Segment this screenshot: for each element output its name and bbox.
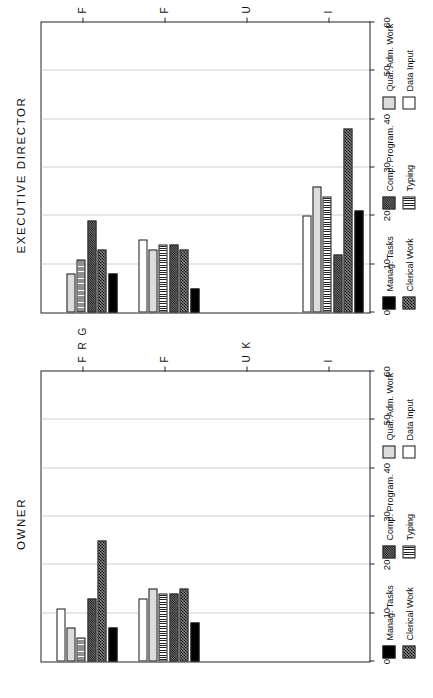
category-label-F: F: [159, 5, 170, 13]
chart-canvas-executive-director: EXECUTIVE DIRECTOR 0102030405060IU KFF R…: [0, 0, 433, 349]
bar-FRG-ClericalWork: [97, 540, 106, 661]
bar-I-ManagTasks: [354, 211, 363, 313]
x-axis-tick: [369, 370, 374, 371]
x-axis-tick: [369, 612, 374, 613]
legend-swatch-clerical: [402, 296, 415, 309]
bar-F-DataInput: [138, 598, 147, 661]
legend-label-qual: Qual. Adm. Work: [384, 372, 394, 440]
category-label-FRG: F R G: [77, 0, 88, 13]
chart-panel-owner: OWNER 0102030405060IU KFF R G Manag. Tas…: [0, 349, 433, 698]
chart-title-executive-director: EXECUTIVE DIRECTOR: [14, 0, 26, 349]
legend-swatch-data: [402, 96, 415, 109]
legend-item-clerical: Clerical Work: [402, 238, 415, 309]
legend-item-qual: Qual. Adm. Work: [382, 372, 395, 458]
legend-item-typing: Typing: [402, 164, 415, 209]
x-axis-tick: [369, 563, 374, 564]
gridline: [41, 418, 369, 419]
legend-item-manag: Manag. Tasks: [382, 585, 395, 658]
bar-FRG-CompProgram: [87, 598, 96, 661]
category-label-UK: U K: [241, 0, 252, 13]
chart-canvas-owner: OWNER 0102030405060IU KFF R G Manag. Tas…: [0, 349, 433, 698]
bar-F-Typing: [158, 244, 167, 312]
bar-FRG-ClericalWork: [97, 249, 106, 312]
bar-F-CompProgram: [169, 244, 178, 312]
category-label-I: I: [323, 8, 334, 13]
legend-swatch-data: [402, 445, 415, 458]
x-axis-tick: [369, 118, 374, 119]
bar-F-Typing: [158, 593, 167, 661]
legend-swatch-typing: [402, 196, 415, 209]
bar-FRG-DataInput: [56, 608, 65, 661]
bar-I-Typing: [322, 196, 331, 312]
bar-FRG-Typing: [76, 637, 85, 661]
x-axis-tick: [369, 660, 374, 661]
category-tick: [164, 17, 165, 22]
category-label-F: F: [159, 354, 170, 362]
gridline: [41, 166, 369, 167]
chart-title-owner: OWNER: [14, 349, 26, 698]
bar-F-ClericalWork: [179, 589, 188, 662]
legend-item-comp: Comp. Program.: [382, 474, 395, 558]
legend-swatch-comp: [382, 196, 395, 209]
gridline: [41, 515, 369, 516]
legend-item-comp: Comp. Program.: [382, 125, 395, 209]
bar-F-QualAdmWork: [148, 249, 157, 312]
legend-swatch-manag: [382, 296, 395, 309]
x-axis-tick: [369, 69, 374, 70]
legend-label-clerical: Clerical Work: [404, 238, 414, 291]
legend-label-manag: Manag. Tasks: [384, 236, 394, 291]
x-axis-tick: [369, 263, 374, 264]
legend-swatch-comp: [382, 545, 395, 558]
category-label-UK: U K: [241, 339, 252, 362]
category-tick: [82, 366, 83, 371]
bar-F-DataInput: [138, 240, 147, 313]
bar-I-DataInput: [302, 215, 311, 312]
category-tick: [328, 366, 329, 371]
legend-label-data: Data Input: [404, 398, 414, 440]
legend-item-data: Data Input: [402, 49, 415, 109]
bar-F-CompProgram: [169, 593, 178, 661]
legend-label-comp: Comp. Program.: [384, 125, 394, 191]
category-tick: [246, 366, 247, 371]
gridline: [41, 563, 369, 564]
legend-label-qual: Qual. Adm. Work: [384, 23, 394, 91]
x-axis-tick: [369, 21, 374, 22]
bar-F-QualAdmWork: [148, 589, 157, 662]
x-axis-tick: [369, 467, 374, 468]
bar-I-QualAdmWork: [312, 186, 321, 312]
bar-FRG-QualAdmWork: [66, 273, 75, 312]
plot-area-executive-director: 0102030405060IU KFF R G: [40, 21, 370, 313]
legend-label-clerical: Clerical Work: [404, 587, 414, 640]
chart-panel-executive-director: EXECUTIVE DIRECTOR 0102030405060IU KFF R…: [0, 0, 433, 349]
bar-FRG-ManagTasks: [108, 273, 117, 312]
chart-legend-executive-director: Manag. TasksClerical WorkComp. Program.T…: [382, 21, 428, 313]
bar-FRG-QualAdmWork: [66, 627, 75, 661]
gridline: [41, 69, 369, 70]
gridline: [41, 118, 369, 119]
legend-swatch-qual: [382, 96, 395, 109]
category-tick: [328, 17, 329, 22]
bar-I-ClericalWork: [343, 128, 352, 312]
x-axis-tick: [369, 311, 374, 312]
legend-label-typing: Typing: [404, 164, 414, 191]
gridline: [41, 467, 369, 468]
x-axis-tick: [369, 515, 374, 516]
x-axis-tick: [369, 418, 374, 419]
legend-item-manag: Manag. Tasks: [382, 236, 395, 309]
category-tick: [82, 17, 83, 22]
legend-item-clerical: Clerical Work: [402, 587, 415, 658]
bar-FRG-ManagTasks: [108, 627, 117, 661]
chart-legend-owner: Manag. TasksClerical WorkComp. Program.T…: [382, 370, 428, 662]
legend-label-data: Data Input: [404, 49, 414, 91]
legend-label-typing: Typing: [404, 513, 414, 540]
legend-label-manag: Manag. Tasks: [384, 585, 394, 640]
x-axis-tick: [369, 166, 374, 167]
bar-F-ManagTasks: [190, 622, 199, 661]
x-axis-tick: [369, 214, 374, 215]
legend-item-qual: Qual. Adm. Work: [382, 23, 395, 109]
category-tick: [246, 17, 247, 22]
legend-item-typing: Typing: [402, 513, 415, 558]
bar-I-CompProgram: [333, 254, 342, 312]
bar-F-ManagTasks: [190, 288, 199, 312]
bar-F-ClericalWork: [179, 249, 188, 312]
